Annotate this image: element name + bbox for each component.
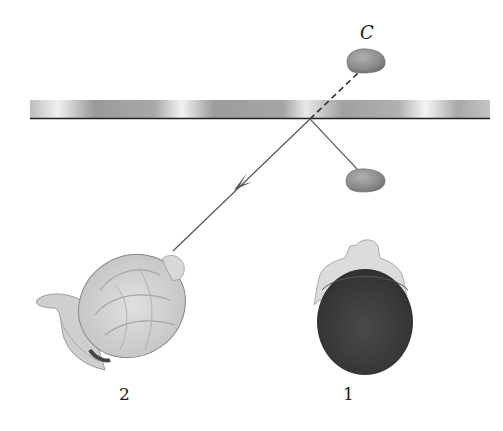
label-object-c: C [360,24,374,42]
stone-real [346,169,385,192]
head-2 [36,233,205,378]
label-observer-2: 2 [119,386,130,403]
arrowhead-icon [234,173,252,190]
diagram-svg [0,0,503,431]
diagram-canvas: C 2 1 [0,0,503,431]
label-observer-1: 1 [343,386,354,403]
mirror [30,100,490,119]
incident-ray [310,119,358,170]
stone-c-image [347,49,385,73]
head-1 [314,240,413,375]
